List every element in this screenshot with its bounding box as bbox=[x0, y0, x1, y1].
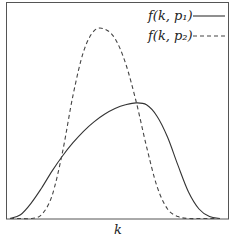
line-chart: f(k, p₁) f(k, p₂) k bbox=[0, 0, 233, 238]
x-axis-label: k bbox=[114, 222, 122, 237]
legend-label-p1: f(k, p₁) bbox=[147, 8, 193, 23]
legend-label-p2: f(k, p₂) bbox=[147, 28, 193, 43]
legend: f(k, p₁) f(k, p₂) bbox=[147, 8, 225, 43]
series-dashed-line bbox=[10, 28, 220, 219]
plot-frame bbox=[7, 3, 229, 220]
series-solid-line bbox=[10, 103, 220, 219]
